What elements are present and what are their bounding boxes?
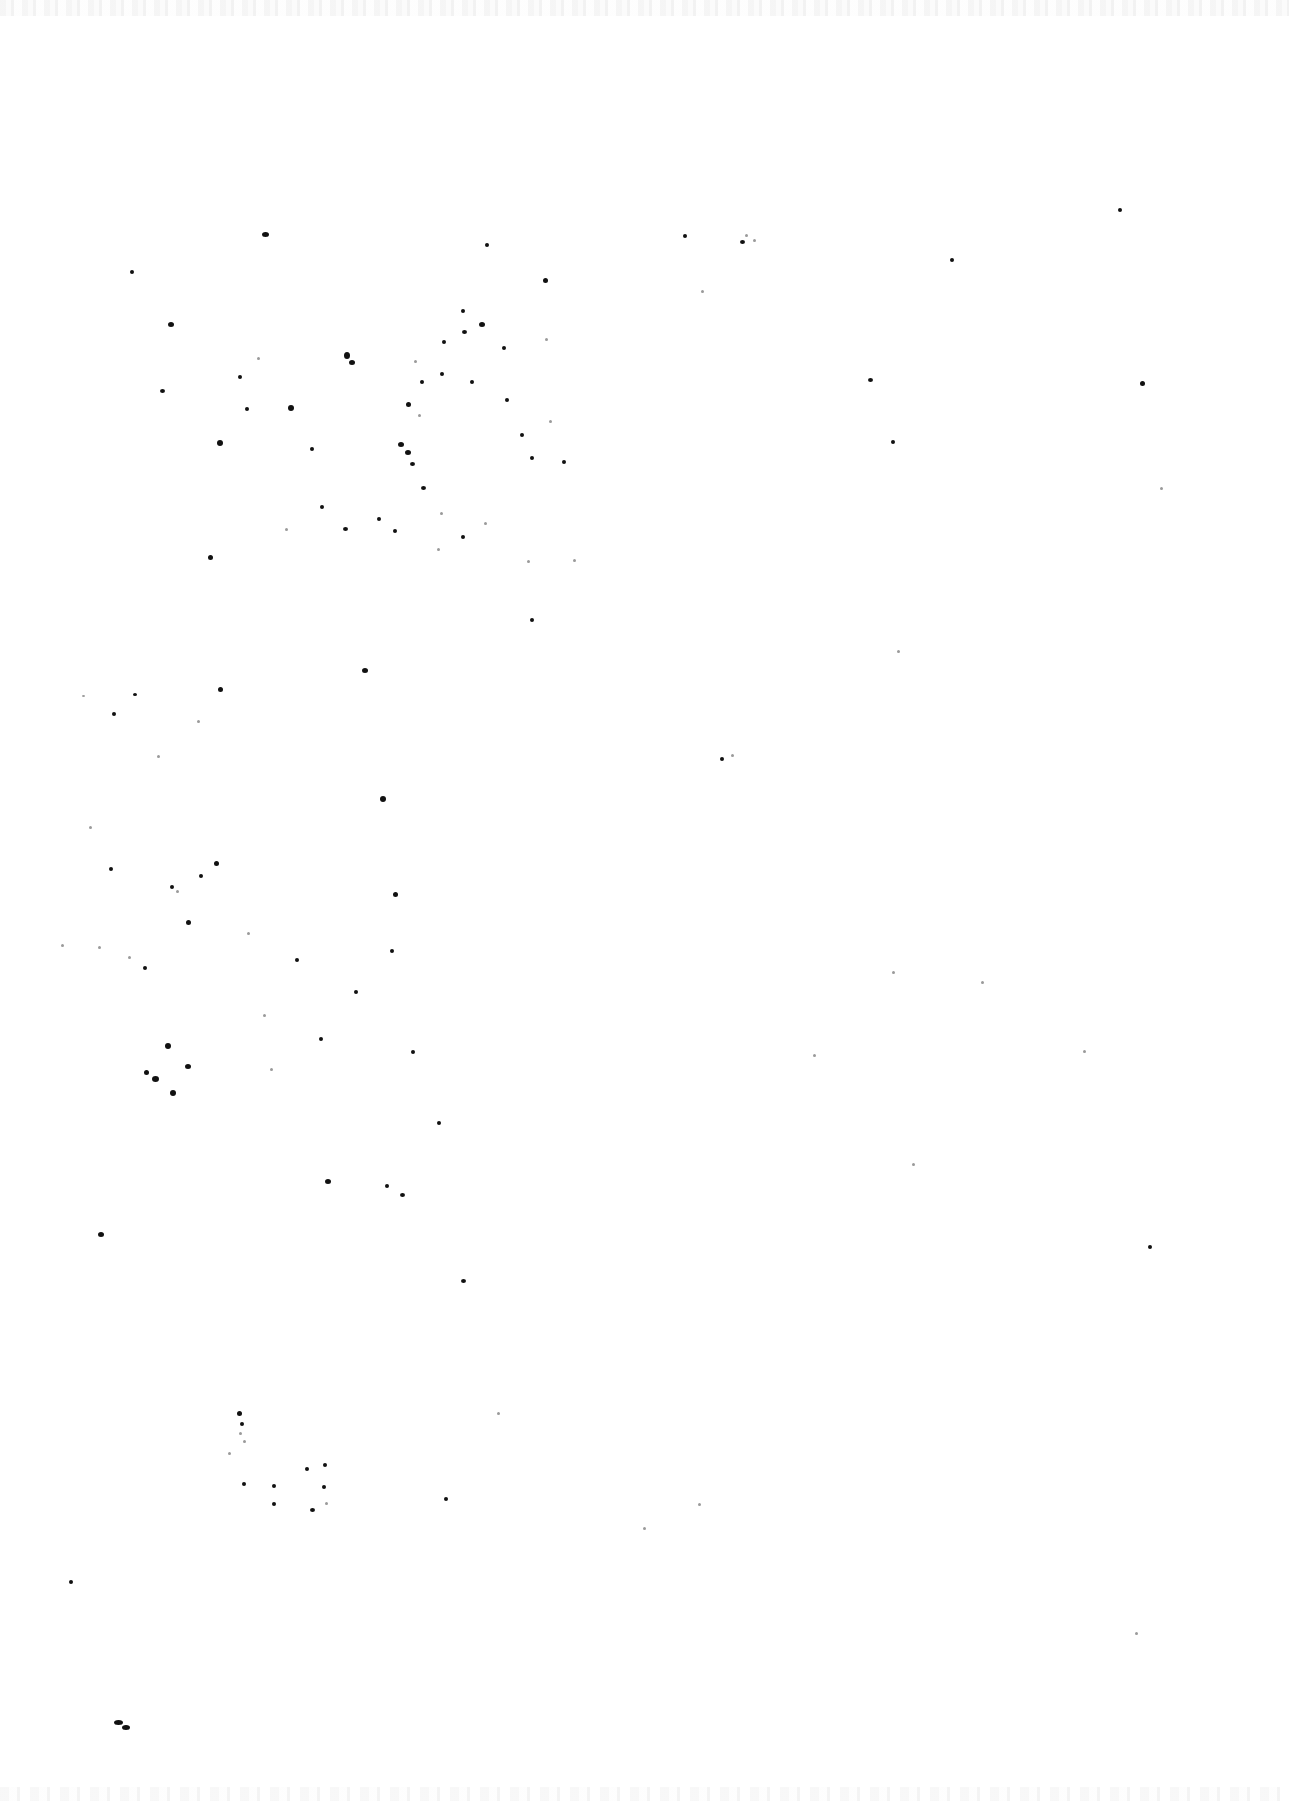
- speckle-dot: [262, 232, 269, 237]
- speckle-dot: [112, 712, 116, 716]
- speckle-dot: [470, 380, 474, 384]
- speckle-dot: [69, 1580, 73, 1584]
- speckle-dot: [530, 618, 534, 622]
- speckle-dot: [1118, 208, 1122, 212]
- speckle-dot: [208, 555, 213, 560]
- speckle-dot: [1135, 1632, 1138, 1635]
- speckle-dot: [310, 1508, 315, 1512]
- speckle-dot: [505, 398, 509, 402]
- speckle-dot: [165, 1043, 171, 1049]
- speckle-dot: [414, 360, 417, 363]
- speckle-dot: [410, 462, 415, 466]
- speckle-dot: [892, 971, 895, 974]
- speckle-dot: [437, 548, 440, 551]
- speckle-dot: [440, 512, 443, 515]
- speckle-dot: [731, 754, 734, 757]
- speckle-dot: [82, 695, 85, 697]
- speckle-dot: [240, 1422, 244, 1426]
- speckle-dot: [573, 559, 576, 562]
- speckle-dot: [390, 949, 394, 953]
- speckle-dot: [344, 352, 350, 359]
- speckle-dot: [1148, 1245, 1152, 1249]
- speckle-dot: [406, 402, 411, 407]
- speckle-dot: [461, 1279, 466, 1283]
- speckle-dot: [868, 378, 873, 382]
- speckle-dot: [270, 1068, 273, 1071]
- speckle-dot: [89, 826, 92, 829]
- speckle-dot: [420, 380, 424, 384]
- speckle-dot: [479, 322, 485, 327]
- speckle-dot: [323, 1463, 327, 1467]
- speckle-dot: [440, 372, 444, 376]
- speckle-dot: [197, 720, 200, 723]
- speckle-dot: [237, 1411, 242, 1416]
- speckle-dot: [393, 529, 397, 533]
- speckle-dot: [462, 330, 467, 334]
- speckle-dot: [157, 755, 160, 758]
- speckle-dot: [238, 375, 242, 379]
- speckle-dot: [545, 338, 548, 341]
- speckle-dot: [398, 442, 404, 447]
- speckle-dot: [186, 920, 191, 925]
- speckle-dot: [288, 405, 294, 411]
- speckle-dot: [981, 981, 984, 984]
- speckle-dot: [114, 1720, 123, 1725]
- speckle-dot: [400, 1193, 405, 1197]
- speckle-dot: [720, 757, 724, 761]
- speckle-dot: [170, 885, 174, 889]
- speckle-dot: [683, 234, 687, 238]
- speckle-dot: [1140, 381, 1145, 386]
- speckle-dot: [109, 867, 113, 871]
- speckle-dot: [530, 456, 534, 460]
- speckle-dot: [305, 1467, 309, 1471]
- speckle-dot: [411, 1050, 415, 1054]
- speckle-dot: [437, 1121, 441, 1125]
- speckle-dot: [354, 990, 358, 994]
- speckle-dot: [1083, 1050, 1086, 1053]
- speckle-dot: [170, 1090, 176, 1096]
- speckle-dot: [247, 932, 250, 935]
- speckle-dot: [322, 1485, 326, 1489]
- speckle-dot: [319, 1037, 323, 1041]
- speckle-dot: [377, 517, 381, 521]
- speckle-dot: [405, 450, 411, 455]
- speckle-dot: [461, 309, 465, 313]
- speckle-dot: [217, 440, 223, 446]
- speckle-dot: [543, 278, 548, 283]
- speckle-dot: [343, 527, 348, 531]
- speckle-dot: [263, 1014, 266, 1017]
- speckle-dot: [61, 944, 64, 947]
- speckle-dot: [418, 414, 421, 417]
- speckle-dot: [128, 956, 131, 959]
- speckle-dot: [242, 1482, 246, 1486]
- speckle-dot: [520, 433, 524, 437]
- speckle-dot: [185, 1064, 191, 1069]
- speckle-dot: [497, 1412, 500, 1415]
- speckle-dot: [442, 340, 446, 344]
- speckle-dot: [272, 1484, 276, 1488]
- speckle-dot: [218, 687, 223, 692]
- speckle-dot: [1160, 487, 1163, 490]
- speckle-dot: [502, 346, 506, 350]
- speckle-dot: [421, 486, 426, 490]
- speckle-dot: [243, 1440, 246, 1443]
- speckle-dot: [444, 1497, 448, 1501]
- scan-edge-band-bottom: [0, 1787, 1289, 1801]
- speckle-dot: [950, 258, 954, 262]
- speckle-dot: [325, 1502, 328, 1505]
- speckle-dot: [98, 1232, 104, 1237]
- scanned-blank-page: [0, 0, 1289, 1801]
- speckle-dot: [295, 958, 299, 962]
- speckle-dot: [380, 796, 386, 802]
- speckle-dot: [168, 322, 174, 327]
- speckle-dot: [813, 1054, 816, 1057]
- speckle-dot: [133, 693, 137, 696]
- speckle-dot: [549, 420, 552, 423]
- speckle-dot: [257, 357, 260, 360]
- speckle-dot: [740, 240, 745, 244]
- speckle-dot: [320, 505, 324, 509]
- speckle-dot: [643, 1527, 646, 1530]
- scan-edge-band-top: [0, 0, 1289, 16]
- speckle-dot: [144, 1070, 149, 1075]
- speckle-dot: [698, 1503, 701, 1506]
